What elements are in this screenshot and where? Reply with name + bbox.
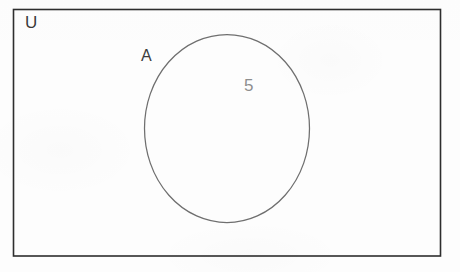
set-a-count-label: 5 (244, 77, 253, 94)
universal-set-rectangle (14, 10, 441, 257)
venn-diagram-canvas: U A 5 (0, 0, 460, 272)
venn-diagram-graphic (0, 0, 460, 272)
set-a-label: A (141, 48, 152, 64)
universal-set-label: U (25, 14, 37, 31)
set-a-circle (145, 35, 310, 223)
